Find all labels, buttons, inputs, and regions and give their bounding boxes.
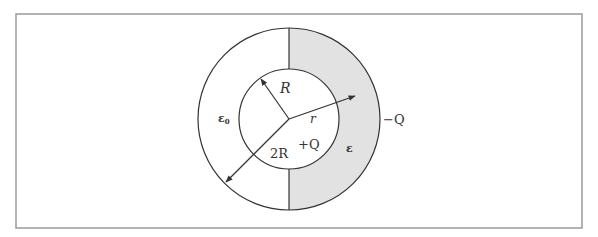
inner-charge-label: +Q <box>298 137 320 152</box>
outer-radius-label: 2R <box>270 146 289 161</box>
spherical-capacitor-diagram: R r 2R +Q −Q ε0 ε <box>0 0 598 237</box>
dielectric-permittivity-label: ε <box>346 142 353 155</box>
inner-radius-label: R <box>279 80 291 96</box>
outer-charge-label: −Q <box>383 112 405 127</box>
